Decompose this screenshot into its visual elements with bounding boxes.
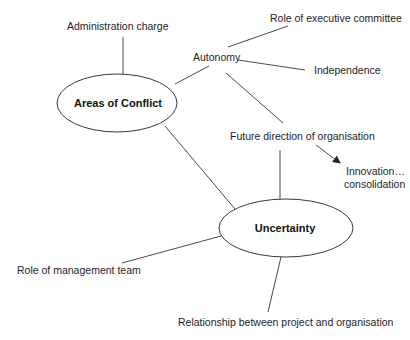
- edge-autonomy-to-independence: [238, 60, 305, 70]
- edge-autonomy-to-future: [226, 73, 283, 123]
- edge-future-to-innovation-arrow: [316, 145, 340, 163]
- edge-uncertainty-to-relationship: [268, 257, 281, 312]
- edge-conflict-to-autonomy: [175, 66, 209, 84]
- label-future-direction: Future direction of organisation: [230, 130, 375, 142]
- label-role-of-management-team: Role of management team: [17, 264, 141, 276]
- label-role-of-executive-committee: Role of executive committee: [270, 12, 402, 24]
- label-innovation: Innovation…: [346, 165, 405, 177]
- node-areas-of-conflict: Areas of Conflict: [57, 74, 177, 132]
- label-autonomy: Autonomy: [193, 51, 241, 63]
- uncertainty-label: Uncertainty: [255, 222, 316, 234]
- node-uncertainty: Uncertainty: [219, 199, 353, 257]
- edge-conflict-to-uncertainty: [165, 126, 235, 209]
- label-consolidation: consolidation: [344, 178, 405, 190]
- label-administration-charge: Administration charge: [67, 20, 169, 32]
- label-relationship: Relationship between project and organis…: [178, 316, 394, 328]
- edge-uncertainty-to-mgmt-team: [122, 236, 221, 263]
- areas-of-conflict-label: Areas of Conflict: [74, 97, 162, 109]
- label-independence: Independence: [314, 64, 381, 76]
- mind-map-diagram: Areas of Conflict Uncertainty Administra…: [0, 0, 410, 340]
- edge-autonomy-to-role-exec: [228, 26, 288, 47]
